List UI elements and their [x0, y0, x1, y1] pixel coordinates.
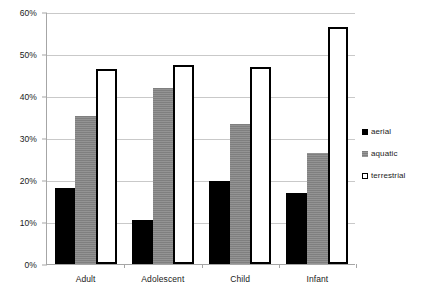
- legend-item-aquatic: aquatic: [362, 146, 434, 161]
- x-tick-mark: [356, 264, 357, 268]
- bar-child-aquatic: [230, 124, 251, 264]
- y-tick-label: 50%: [0, 50, 37, 60]
- x-tick-mark: [124, 264, 125, 268]
- bar-infant-aerial: [286, 193, 307, 264]
- legend-label-terrestrial: terrestrial: [371, 171, 405, 180]
- y-tick-label: 30%: [0, 134, 37, 144]
- x-tick-mark: [279, 264, 280, 268]
- bar-adolescent-terrestrial: [173, 65, 194, 264]
- legend-swatch-terrestrial-icon: [362, 173, 368, 179]
- bar-child-aerial: [209, 181, 230, 264]
- bar-adult-aquatic: [75, 116, 96, 264]
- bar-infant-aquatic: [307, 153, 328, 264]
- x-tick-mark: [202, 264, 203, 268]
- y-tick-label: 20%: [0, 176, 37, 186]
- bar-adolescent-aerial: [132, 220, 153, 264]
- bar-adult-aerial: [55, 188, 76, 264]
- legend-label-aerial: aerial: [371, 127, 391, 136]
- x-category-label-child: Child: [230, 274, 250, 284]
- legend-swatch-aerial-icon: [362, 129, 368, 135]
- legend-item-terrestrial: terrestrial: [362, 168, 434, 183]
- bar-chart: 0%10%20%30%40%50%60% AdultAdolescentChil…: [0, 0, 434, 298]
- x-category-label-infant: Infant: [306, 274, 328, 284]
- legend-swatch-aquatic-icon: [362, 151, 368, 157]
- plot-frame: 0%10%20%30%40%50%60% AdultAdolescentChil…: [46, 13, 355, 265]
- bar-infant-terrestrial: [328, 27, 349, 264]
- x-category-label-adult: Adult: [76, 274, 96, 284]
- x-category-label-adolescent: Adolescent: [141, 274, 184, 284]
- y-tick-label: 40%: [0, 92, 37, 102]
- legend-item-aerial: aerial: [362, 124, 434, 139]
- bar-adult-terrestrial: [96, 69, 117, 264]
- bar-child-terrestrial: [250, 67, 271, 264]
- y-tick-label: 10%: [0, 218, 37, 228]
- plot-area: [47, 13, 355, 264]
- legend-label-aquatic: aquatic: [371, 149, 398, 158]
- chart-legend: aerialaquaticterrestrial: [362, 124, 434, 190]
- y-tick-label: 60%: [0, 8, 37, 18]
- y-tick-mark: [42, 265, 47, 266]
- bar-adolescent-aquatic: [153, 88, 174, 264]
- y-tick-label: 0%: [0, 260, 37, 270]
